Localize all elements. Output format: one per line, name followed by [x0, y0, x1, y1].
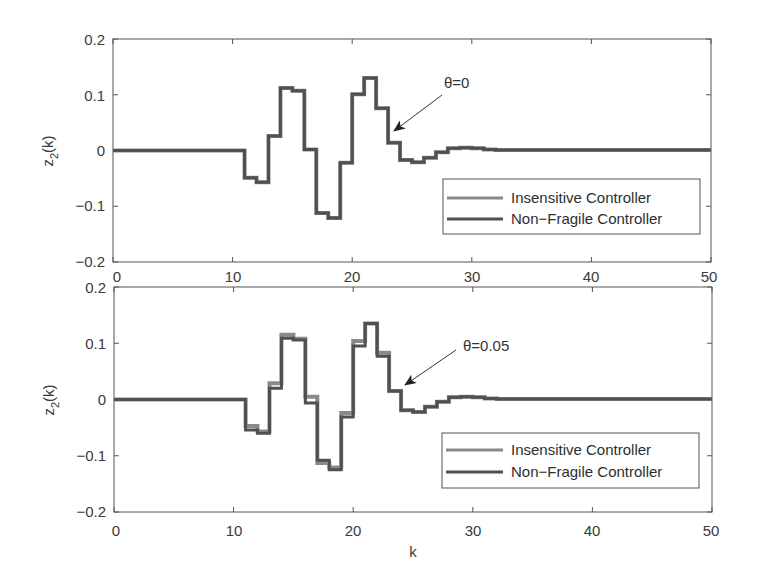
top-ytick-label: −0.1	[75, 197, 105, 214]
bottom-annotation-arrow-icon	[405, 350, 456, 385]
top-xtick-label: 10	[225, 268, 242, 285]
bottom-xtick-label: 40	[584, 522, 601, 539]
bottom-xlabel: k	[409, 543, 417, 560]
legend-label-insensitive: Insensitive Controller	[511, 189, 651, 206]
top-legend: Insensitive Controller Non−Fragile Contr…	[443, 179, 700, 234]
bottom-xtick-label: 20	[345, 522, 362, 539]
bottom-ytick-label: 0.1	[85, 335, 106, 352]
top-ytick-label: −0.2	[75, 253, 105, 270]
bottom-xtick-label: 10	[226, 522, 243, 539]
bottom-ylabel: z2(k)	[40, 384, 61, 415]
top-ylabel: z2(k)	[39, 135, 60, 166]
bottom-legend: Insensitive Controller Non−Fragile Contr…	[442, 433, 699, 488]
bottom-annotation-theta: θ=0.05	[463, 337, 509, 354]
bottom-ytick-label: 0.2	[85, 279, 106, 296]
top-xtick-label: 50	[701, 268, 718, 285]
top-annotation-arrow-icon	[394, 95, 442, 131]
figure: 0.2 0.1 0 −0.1 −0.2 0 10 20 30 40 50 z2(…	[0, 0, 758, 585]
top-ytick-label: 0.1	[84, 87, 105, 104]
top-xtick-label: 20	[344, 268, 361, 285]
top-xtick-label: 0	[113, 268, 121, 285]
legend-label-nonfragile: Non−Fragile Controller	[511, 463, 662, 480]
top-ytick-label: 0	[97, 142, 105, 159]
top-panel: 0.2 0.1 0 −0.1 −0.2 0 10 20 30 40 50 z2(…	[39, 31, 717, 285]
bottom-panel: 0.2 0.1 0 −0.1 −0.2 0 10 20 30 40 50 k z…	[40, 279, 719, 560]
top-xtick-label: 30	[464, 268, 481, 285]
top-xtick-label: 40	[583, 268, 600, 285]
bottom-ytick-label: 0	[98, 391, 106, 408]
legend-label-insensitive: Insensitive Controller	[511, 441, 651, 458]
top-ytick-label: 0.2	[84, 31, 105, 48]
top-annotation-theta: θ=0	[444, 74, 469, 91]
bottom-xtick-label: 50	[703, 522, 720, 539]
legend-label-nonfragile: Non−Fragile Controller	[511, 210, 662, 227]
bottom-xtick-label: 30	[465, 522, 482, 539]
bottom-ytick-label: −0.2	[76, 503, 106, 520]
bottom-xtick-label: 0	[112, 522, 120, 539]
bottom-ytick-label: −0.1	[76, 447, 106, 464]
